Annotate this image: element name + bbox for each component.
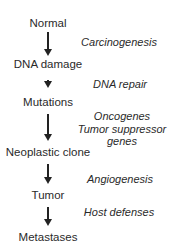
- transition-carcinogenesis: Carcinogenesis: [81, 36, 157, 49]
- transition-dna-repair: DNA repair: [93, 78, 147, 91]
- node-mutations: Mutations: [23, 96, 73, 108]
- node-neoplastic-clone: Neoplastic clone: [6, 146, 90, 158]
- transition-line: genes: [78, 135, 166, 148]
- transition-line: Tumor suppressor: [78, 123, 166, 136]
- node-normal: Normal: [29, 17, 66, 29]
- arrow-down-icon: [47, 207, 49, 221]
- transition-angiogenesis: Angiogenesis: [87, 173, 153, 186]
- node-tumor: Tumor: [32, 189, 65, 201]
- arrow-down-icon: [47, 80, 49, 83]
- arrow-down-icon: [47, 164, 49, 179]
- node-dna-damage: DNA damage: [14, 58, 82, 70]
- arrow-down-icon: [47, 32, 49, 51]
- transition-host-defenses: Host defenses: [84, 206, 154, 219]
- arrow-down-icon: [47, 114, 49, 136]
- node-metastases: Metastases: [19, 231, 78, 243]
- transition-line: Oncogenes: [78, 110, 166, 123]
- transition-oncogenes-tumor-suppressor-genes: Oncogenes Tumor suppressor genes: [78, 110, 166, 148]
